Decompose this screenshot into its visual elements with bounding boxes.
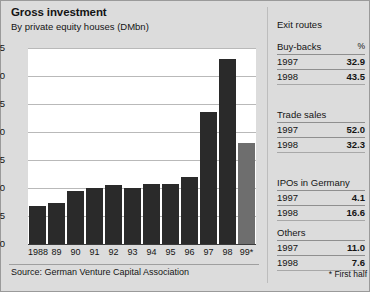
- row-year: 1997: [277, 123, 298, 137]
- bar-chart: 00.51.01.52.02.53.03.5 19888990919293949…: [1, 41, 263, 263]
- panel-title: Exit routes: [277, 19, 322, 30]
- table-row: 19974.1: [277, 191, 365, 205]
- y-axis-tick-label: 2.0: [0, 127, 5, 137]
- y-axis-tick-label: 0: [0, 239, 5, 249]
- row-value: 52.0: [347, 123, 366, 137]
- row-value: 7.6: [352, 256, 365, 270]
- row-year: 1997: [277, 191, 298, 205]
- bar: [67, 191, 84, 244]
- table-row: 19987.6: [277, 256, 365, 270]
- page-title: Gross investment: [11, 6, 107, 18]
- x-axis-tick-label: 1988: [28, 248, 47, 257]
- row-year: 1997: [277, 55, 298, 69]
- axis-baseline: [28, 244, 256, 245]
- panel-group: IPOs in Germany19974.1199816.6: [277, 177, 365, 221]
- percent-header: %: [357, 41, 365, 51]
- x-axis-tick-label: 89: [47, 248, 66, 257]
- panel-group-title: Others: [277, 227, 365, 240]
- table-row: 199832.3: [277, 138, 365, 152]
- y-axis-tick-label: 3.0: [0, 71, 5, 81]
- x-axis-tick-label: 96: [180, 248, 199, 257]
- row-value: 32.3: [347, 138, 366, 152]
- row-rule: [277, 84, 365, 85]
- page-subtitle: By private equity houses (DMbn): [11, 21, 149, 32]
- y-axis-tick-label: 1.5: [0, 155, 5, 165]
- x-axis-tick-label: 94: [142, 248, 161, 257]
- table-row: 199711.0: [277, 241, 365, 255]
- y-axis-tick-label: 2.5: [0, 99, 5, 109]
- x-axis-tick-label: 98: [218, 248, 237, 257]
- panel-group-title: IPOs in Germany: [277, 177, 365, 190]
- table-row: 199843.5: [277, 70, 365, 84]
- row-year: 1998: [277, 256, 298, 270]
- source-note: Source: German Venture Capital Associati…: [11, 267, 189, 277]
- x-axis-tick-label: 99*: [237, 248, 256, 257]
- panel-group: Trade sales199752.0199832.3: [277, 109, 365, 153]
- panel-group-title: Buy-backs%: [277, 41, 365, 54]
- row-year: 1997: [277, 241, 298, 255]
- bar: [143, 184, 160, 244]
- x-axis-tick-label: 97: [199, 248, 218, 257]
- bar: [200, 112, 217, 244]
- panel-group: Others199711.019987.6: [277, 227, 365, 271]
- bar: [181, 177, 198, 244]
- bar: [162, 184, 179, 244]
- bar: [124, 188, 141, 244]
- y-axis-tick-label: 1.0: [0, 183, 5, 193]
- row-rule: [277, 152, 365, 153]
- table-row: 199732.9: [277, 55, 365, 69]
- bar: [238, 143, 255, 244]
- row-value: 32.9: [347, 55, 366, 69]
- row-year: 1998: [277, 206, 298, 220]
- source-rule: [9, 264, 259, 265]
- panel-divider: [267, 7, 268, 283]
- bar: [105, 185, 122, 244]
- row-year: 1998: [277, 138, 298, 152]
- panel-group-title: Trade sales: [277, 109, 365, 122]
- row-value: 43.5: [347, 70, 366, 84]
- x-axis-tick-label: 93: [123, 248, 142, 257]
- x-axis-tick-label: 92: [104, 248, 123, 257]
- row-value: 4.1: [352, 191, 365, 205]
- x-axis-tick-label: 95: [161, 248, 180, 257]
- exit-routes-panel: Exit routes Buy-backs%199732.9199843.5Tr…: [277, 1, 369, 292]
- bar: [29, 206, 46, 244]
- row-value: 16.6: [347, 206, 366, 220]
- y-axis-tick-label: 3.5: [0, 43, 5, 53]
- table-row: 199752.0: [277, 123, 365, 137]
- panel-group: Buy-backs%199732.9199843.5: [277, 41, 365, 85]
- row-year: 1998: [277, 70, 298, 84]
- footnote: * First half: [279, 269, 367, 279]
- row-rule: [277, 220, 365, 221]
- bar-series: [28, 48, 256, 244]
- x-axis-tick-label: 90: [66, 248, 85, 257]
- x-axis-tick-label: 91: [85, 248, 104, 257]
- bar: [219, 59, 236, 244]
- y-axis-tick-label: 0.5: [0, 211, 5, 221]
- chart-figure: Gross investment By private equity house…: [0, 0, 370, 292]
- bar: [48, 203, 65, 244]
- row-value: 11.0: [347, 241, 365, 255]
- table-row: 199816.6: [277, 206, 365, 220]
- bar: [86, 188, 103, 244]
